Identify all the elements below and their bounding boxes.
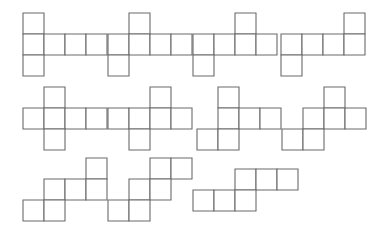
cube-net-3	[192, 12, 276, 75]
net-cell	[324, 108, 345, 129]
net-cell	[23, 200, 44, 221]
net-cell	[239, 108, 260, 129]
cube-net-4	[280, 12, 364, 75]
net-cell	[171, 34, 192, 55]
net-cell	[214, 34, 235, 55]
cube-net-11	[192, 168, 297, 210]
net-cell	[193, 34, 214, 55]
net-cell	[150, 87, 171, 108]
net-cell	[86, 108, 107, 129]
net-cell	[193, 55, 214, 76]
net-cell	[344, 34, 365, 55]
net-cell	[65, 179, 86, 200]
cube-net-5	[22, 86, 106, 149]
net-squares-8	[281, 86, 367, 151]
net-cell	[23, 34, 44, 55]
net-cell	[281, 55, 302, 76]
net-squares-9	[22, 157, 108, 222]
cube-nets-figure	[0, 0, 368, 227]
net-cell	[44, 129, 65, 150]
net-cell	[86, 158, 107, 179]
net-cell	[129, 179, 150, 200]
net-cell	[129, 200, 150, 221]
cube-net-7	[196, 86, 280, 149]
net-cell	[235, 34, 256, 55]
net-squares-7	[196, 86, 282, 151]
cube-net-2	[107, 12, 191, 75]
net-cell	[44, 108, 65, 129]
net-cell	[86, 34, 107, 55]
net-cell	[150, 179, 171, 200]
net-cell	[345, 108, 366, 129]
net-cell	[23, 13, 44, 34]
net-cell	[197, 129, 218, 150]
net-cell	[86, 179, 107, 200]
net-cell	[150, 158, 171, 179]
net-cell	[260, 108, 281, 129]
net-cell	[302, 34, 323, 55]
net-cell	[23, 55, 44, 76]
net-squares-5	[22, 86, 108, 151]
net-cell	[171, 108, 192, 129]
net-cell	[214, 190, 235, 211]
cube-net-1	[22, 12, 106, 75]
net-cell	[218, 108, 239, 129]
net-cell	[65, 108, 86, 129]
net-cell	[323, 34, 344, 55]
net-cell	[44, 34, 65, 55]
net-squares-2	[107, 12, 193, 77]
net-cell	[324, 87, 345, 108]
net-cell	[303, 108, 324, 129]
net-cell	[44, 200, 65, 221]
net-cell	[235, 13, 256, 34]
net-squares-6	[107, 86, 193, 151]
net-cell	[44, 179, 65, 200]
net-cell	[344, 13, 365, 34]
net-cell	[129, 108, 150, 129]
net-cell	[218, 129, 239, 150]
net-cell	[129, 13, 150, 34]
net-cell	[23, 108, 44, 129]
net-cell	[256, 169, 277, 190]
cube-net-9	[22, 157, 106, 220]
net-cell	[129, 129, 150, 150]
net-cell	[171, 158, 192, 179]
cube-net-6	[107, 86, 191, 149]
net-cell	[235, 169, 256, 190]
net-cell	[277, 169, 298, 190]
net-cell	[235, 190, 256, 211]
net-squares-1	[22, 12, 108, 77]
net-cell	[193, 190, 214, 211]
net-cell	[303, 129, 324, 150]
net-cell	[108, 200, 129, 221]
net-cell	[282, 129, 303, 150]
cube-net-8	[281, 86, 365, 149]
net-squares-11	[192, 168, 299, 212]
net-cell	[108, 55, 129, 76]
net-squares-4	[280, 12, 366, 77]
net-cell	[281, 34, 302, 55]
net-cell	[150, 108, 171, 129]
net-cell	[44, 87, 65, 108]
cube-net-10	[107, 157, 191, 220]
net-squares-3	[192, 12, 278, 77]
net-cell	[108, 34, 129, 55]
net-cell	[150, 34, 171, 55]
net-cell	[65, 34, 86, 55]
net-squares-10	[107, 157, 193, 222]
net-cell	[256, 34, 277, 55]
net-cell	[108, 108, 129, 129]
net-cell	[218, 87, 239, 108]
net-cell	[129, 34, 150, 55]
